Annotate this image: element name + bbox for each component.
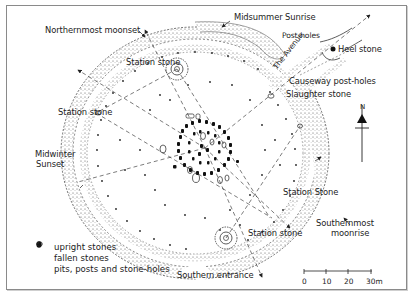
north-arrow-icon [355,105,369,162]
legend-label: fallen stones [54,253,109,263]
label-midwinter-sunset-1: Midwinter [35,150,75,158]
fallen-stones [96,94,303,184]
label-southernmost-moonrise-1: Southernmost [316,219,374,227]
scale-tick-0: 0 [302,277,307,286]
label-northernmost-moonset: Northernmost moonset [45,26,140,34]
label-causeway-post-holes: Causeway post-holes [289,77,376,85]
legend-item-upright: upright stones [36,241,170,252]
heel-stone [331,47,336,52]
label-station-stone-nw: Station stone [126,58,180,66]
legend: upright stones fallen stones pits, posts… [36,241,170,274]
label-slaughter-stone: Slaughter stone [286,90,351,98]
north-label: N [360,104,365,111]
label-midwinter-sunset-2: Sunset [36,160,64,168]
legend-label: upright stones [54,242,116,252]
scale-tick-20: 20 [344,277,353,286]
label-midsummer-sunrise: Midsummer Sunrise [234,13,316,21]
legend-label: pits, posts and stone-holes [54,264,170,274]
legend-item-fallen: fallen stones [36,252,170,263]
scale-tick-30m: 30m [366,277,383,286]
label-station-stone-se: Station Stone [283,188,338,196]
legend-item-pits: pits, posts and stone-holes [36,263,170,274]
label-station-stone-w: Station stone [58,108,112,116]
label-southernmost-moonrise-2: moonrise [331,229,369,237]
scale-bar-graphic [304,269,372,274]
scale-tick-10: 10 [322,277,331,286]
label-southern-entrance: Southern entrance [177,271,253,279]
label-station-stone-s: Station stone [248,229,302,237]
label-heel-stone: Heel stone [338,45,382,53]
